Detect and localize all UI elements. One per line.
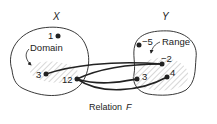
- point-y-2-label: −2: [161, 53, 172, 64]
- set-y-label: Y: [162, 11, 170, 22]
- point-x1-label: 1: [48, 30, 53, 41]
- range-annotation: Range: [162, 36, 190, 47]
- point-x1: [56, 34, 61, 39]
- caption-variable: F: [126, 102, 132, 112]
- point-x12-label: 12: [62, 74, 73, 85]
- point-y4-label: 4: [170, 67, 175, 78]
- mapping-12-to-3: [77, 79, 137, 83]
- relation-diagram: X 1 Domain 3 12 Y −5 Range −2 3 4: [0, 0, 217, 124]
- set-x: X 1 Domain 3 12: [10, 11, 88, 96]
- point-y-5-label: −5: [142, 36, 153, 47]
- domain-annotation: Domain: [30, 42, 63, 53]
- caption-prefix: Relation: [89, 102, 122, 112]
- set-x-label: X: [52, 11, 60, 22]
- point-x3-label: 3: [36, 69, 41, 80]
- point-y3-label: 3: [142, 71, 147, 82]
- point-y-5: [137, 43, 142, 48]
- set-y: Y −5 Range −2 3 4: [132, 11, 196, 95]
